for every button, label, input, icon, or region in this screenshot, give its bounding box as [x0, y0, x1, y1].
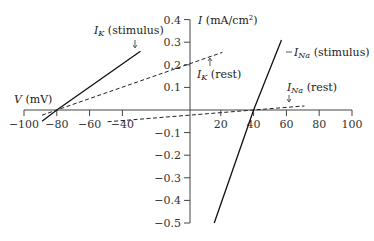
annotation-ina-stimulus: INa (stimulus) [286, 46, 370, 60]
y-tick-label: −0.1 [154, 127, 181, 140]
y-axis-label-unit: (mA/cm [202, 14, 249, 27]
annotation-ik-stimulus: IK (stimulus) [93, 24, 164, 48]
series-line-i-k-rest [42, 52, 222, 115]
arrow-down-icon [133, 40, 137, 48]
label-text: (stimulus) [310, 46, 369, 59]
y-tick-label: 0.3 [164, 36, 182, 49]
x-axis-label: V (mV) [14, 93, 52, 106]
label-subscript: Na [297, 51, 310, 60]
x-tick-label: −60 [78, 118, 101, 131]
annotation-ina-rest: INa (rest) [286, 81, 337, 102]
x-tick-label: −100 [9, 118, 39, 131]
x-tick-label: 100 [342, 118, 363, 131]
arrow-up-icon [208, 58, 212, 66]
y-tick-label: −0.3 [154, 172, 181, 185]
x-axis-label-unit: (mV) [22, 93, 52, 106]
x-tick-label: 80 [312, 118, 326, 131]
annotation-ik-rest-label: IK (rest) [196, 68, 241, 82]
y-axis-label: I (mA/cm2) [197, 14, 258, 27]
y-tick-label: 0.1 [164, 81, 182, 94]
x-tick-label: 20 [214, 118, 228, 131]
series-line-i-na-rest [108, 106, 305, 122]
series-line-i-k-stimulus [42, 51, 140, 121]
annotation-ina-rest-label: INa (rest) [286, 81, 337, 95]
y-tick-label: −0.5 [154, 217, 181, 230]
y-tick-label: −0.4 [154, 194, 181, 207]
annotation-ina-stimulus-label: INa (stimulus) [293, 46, 370, 60]
x-tick-label: −80 [45, 118, 68, 131]
label-text: (rest) [303, 81, 337, 94]
label-text: (stimulus) [104, 24, 163, 37]
x-tick-label: 60 [279, 118, 293, 131]
annotation-ik-stimulus-label: IK (stimulus) [93, 24, 164, 38]
y-tick-label: 0.4 [164, 14, 182, 27]
y-ticks: 0.40.30.20.1−0.1−0.2−0.3−0.4−0.5 [154, 14, 190, 230]
x-ticks: −100−80−60−4020406080100 [9, 110, 363, 131]
label-text: (rest) [207, 68, 241, 81]
y-tick-label: −0.2 [154, 149, 181, 162]
iv-chart: −100−80−60−4020406080100 0.40.30.20.1−0.… [0, 0, 374, 241]
label-subscript: Na [290, 86, 303, 95]
arrow-down-icon [287, 95, 291, 102]
y-axis-label-close: ) [253, 14, 257, 27]
annotation-ik-rest: IK (rest) [196, 58, 241, 82]
